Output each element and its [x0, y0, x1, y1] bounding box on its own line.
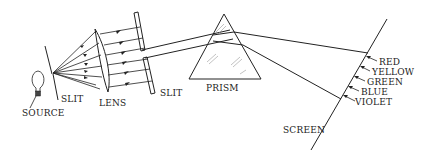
- diverging-rays: [53, 31, 102, 89]
- light-bulb-icon: [30, 71, 44, 108]
- spectrum-blue: BLUE: [361, 87, 388, 97]
- spectrum-violet: VIOLET: [354, 97, 392, 107]
- lens-label: LENS: [99, 98, 126, 108]
- spectrum-green: GREEN: [367, 77, 403, 87]
- source-label: SOURCE: [22, 108, 65, 118]
- prism-dispersion-diagram: SOURCE SLIT LENS: [0, 0, 431, 159]
- first-slit-label: SLIT: [61, 94, 84, 104]
- screen-label: SCREEN: [283, 125, 325, 135]
- lens: [95, 29, 109, 92]
- second-slit-label: SLIT: [160, 88, 183, 98]
- spectrum-labels: RED YELLOW GREEN BLUE VIOLET: [343, 56, 415, 107]
- spectrum-red: RED: [379, 57, 400, 67]
- parallel-rays: [100, 27, 152, 87]
- spectrum-yellow: YELLOW: [371, 67, 415, 77]
- prism-label: PRISM: [206, 83, 239, 93]
